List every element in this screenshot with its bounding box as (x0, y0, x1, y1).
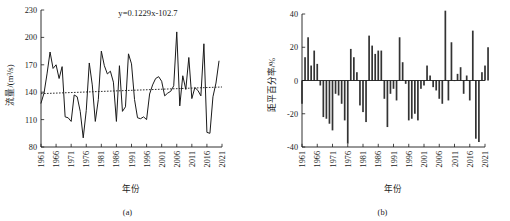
bar (484, 66, 486, 81)
panel-a-y-tick-label: 230 (25, 6, 37, 15)
bar (319, 81, 321, 86)
panel-a: 流量/(m³/s) y=0.1229x-102.7 80110140170200… (0, 0, 255, 221)
panel-b: 距平百分率/% -40-2002040 19611966197119761981… (255, 0, 510, 221)
panel-b-bars (301, 11, 489, 144)
panel-b-x-tick-label: 1991 (390, 151, 399, 167)
panel-b-x-tick-label: 1981 (359, 151, 368, 167)
bar (460, 67, 462, 80)
bar (301, 81, 303, 104)
bar (380, 51, 382, 81)
bar (359, 81, 361, 106)
panel-a-x-tick-label: 1961 (37, 151, 46, 167)
panel-b-x-tick-label: 2001 (420, 151, 429, 167)
bar (420, 81, 422, 89)
panel-b-x-tick-label: 1976 (344, 151, 353, 167)
bar (445, 11, 447, 81)
bar (396, 81, 398, 101)
panel-a-x-tick-label: 2021 (218, 151, 227, 167)
bar (402, 62, 404, 80)
panel-b-y-axis-title: 距平百分率/% (266, 58, 277, 113)
panel-a-y-axis-title: 流量/(m³/s) (4, 64, 15, 105)
panel-a-x-tick-label: 1971 (67, 151, 76, 167)
bar-chart-anomaly: 距平百分率/% -40-2002040 19611966197119761981… (255, 0, 510, 200)
bar (417, 81, 419, 121)
bar (347, 81, 349, 144)
bar (384, 81, 386, 99)
panel-b-y-tick-label: 0 (294, 77, 298, 86)
panel-b-x-tick-label: 2016 (466, 151, 475, 167)
panel-b-x-tick-label: 1971 (329, 151, 338, 167)
panel-b-y-tick-label: 20 (290, 43, 298, 52)
bar (313, 51, 315, 81)
bar (481, 72, 483, 80)
bar (429, 76, 431, 81)
panel-a-x-axis-title: 年份 (122, 183, 140, 194)
bar (463, 81, 465, 94)
bar (414, 81, 416, 114)
panel-b-x-tick-label: 2006 (435, 151, 444, 167)
bar (432, 81, 434, 88)
panel-a-y-tick-label: 170 (25, 61, 37, 70)
panel-a-y-tick-label: 200 (25, 33, 37, 42)
panel-b-y-tick-label: 40 (290, 10, 298, 19)
bar (350, 49, 352, 81)
panel-b-caption: (b) (255, 208, 510, 217)
bar (466, 76, 468, 81)
bar (451, 42, 453, 80)
bar (304, 57, 306, 80)
panel-a-y-tick-label: 140 (25, 88, 37, 97)
bar (408, 81, 410, 121)
bar (307, 37, 309, 80)
bar (399, 37, 401, 80)
panel-a-x-tick-label: 1986 (112, 151, 121, 167)
panel-a-x-tick-label: 2011 (188, 151, 197, 167)
bar (423, 81, 425, 86)
panel-a-y-tick-label: 80 (29, 143, 37, 152)
bar (365, 81, 367, 123)
bar (368, 36, 370, 81)
bar (411, 81, 413, 119)
panel-a-x-tick-label: 1966 (52, 151, 61, 167)
bar (377, 51, 379, 81)
line-chart-discharge: 流量/(m³/s) y=0.1229x-102.7 80110140170200… (0, 0, 255, 200)
bar (344, 81, 346, 121)
panel-a-x-tick-label: 2001 (158, 151, 167, 167)
bar (438, 81, 440, 99)
panel-b-y-tick-label: -20 (287, 110, 298, 119)
panel-a-x-tick-label: 1996 (143, 151, 152, 167)
bar (338, 81, 340, 96)
panel-b-y-tick-label: -40 (287, 143, 298, 152)
panel-a-x-tick-label: 1981 (97, 151, 106, 167)
bar (390, 81, 392, 94)
bar (405, 81, 407, 84)
panel-b-x-tick-label: 1996 (405, 151, 414, 167)
panel-a-trend-equation: y=0.1229x-102.7 (118, 8, 178, 18)
bar (374, 54, 376, 81)
bar (478, 81, 480, 143)
bar (326, 81, 328, 119)
bar (332, 81, 334, 131)
panel-a-y-tick-label: 110 (25, 116, 37, 125)
bar (329, 81, 331, 124)
bar (475, 81, 477, 139)
bar (310, 66, 312, 81)
panel-a-series-line (41, 32, 219, 138)
bar (469, 81, 471, 101)
bar (356, 72, 358, 80)
panel-b-x-tick-label: 1966 (313, 151, 322, 167)
bar (393, 81, 395, 89)
bar (448, 81, 450, 101)
bar (426, 66, 428, 81)
panel-b-x-tick-label: 2021 (481, 151, 490, 167)
panel-a-caption: (a) (0, 208, 255, 217)
bar (457, 74, 459, 81)
bar (341, 81, 343, 104)
bar (387, 81, 389, 128)
bar (487, 47, 489, 80)
panel-a-x-tick-label: 1991 (128, 151, 137, 167)
bar (435, 81, 437, 91)
panel-a-x-tick-label: 1976 (82, 151, 91, 167)
bar (441, 81, 443, 104)
bar (316, 64, 318, 81)
bar (362, 81, 364, 113)
